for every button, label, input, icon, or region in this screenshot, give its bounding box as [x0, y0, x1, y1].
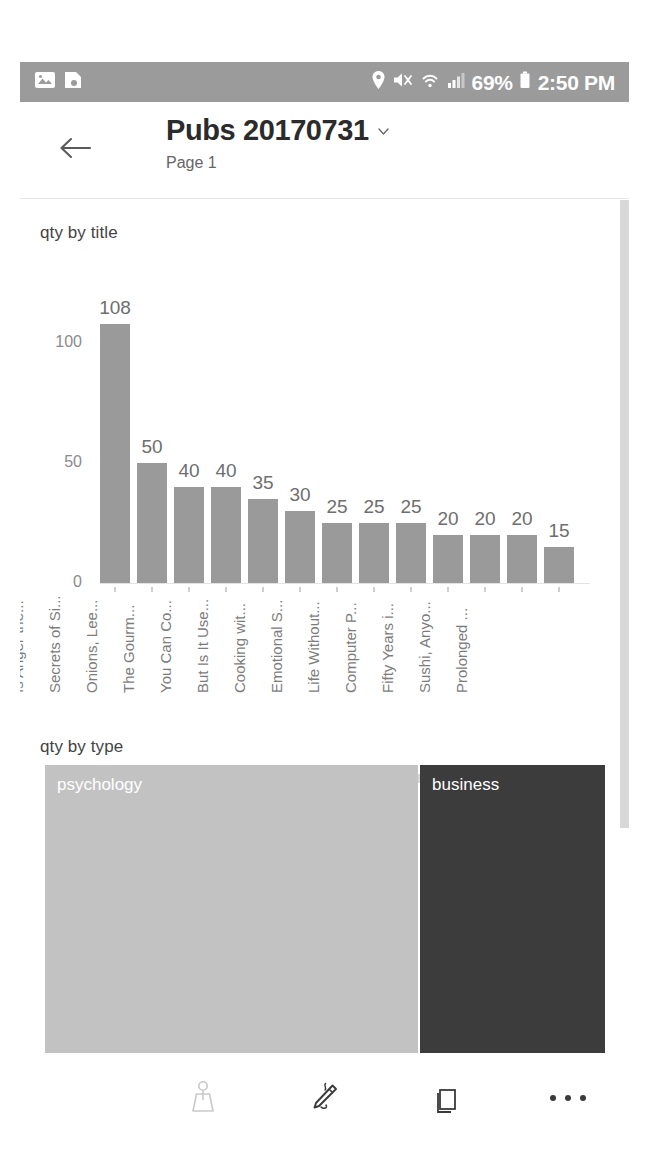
- app-header: Pubs 20170731 Page 1: [20, 102, 629, 198]
- bar[interactable]: [396, 523, 426, 583]
- filter-icon: [184, 1078, 222, 1118]
- bar-value-label: 108: [92, 297, 138, 319]
- wifi-icon: [420, 70, 440, 94]
- bar[interactable]: [137, 463, 167, 583]
- location-pin-icon: [371, 70, 386, 94]
- treemap-cell-label: psychology: [57, 775, 142, 795]
- phone-screen: 69% 2:50 PM Pubs 20170731: [20, 62, 629, 1132]
- report-canvas[interactable]: qty by title 050100 108Is Anger the...50…: [20, 198, 629, 1065]
- bar-column[interactable]: 15Prolonged ...: [544, 249, 574, 699]
- page-title: Pubs 20170731: [166, 114, 369, 147]
- report-title-row[interactable]: Pubs 20170731: [166, 114, 390, 147]
- pages-button[interactable]: [385, 1064, 507, 1132]
- back-arrow-icon: [58, 135, 92, 161]
- chevron-down-icon[interactable]: [377, 124, 390, 137]
- bar[interactable]: [507, 535, 537, 583]
- report-vertical-scrollbar[interactable]: [620, 198, 629, 1064]
- toolbar-spacer: [20, 1064, 142, 1132]
- y-axis-tick-label: 100: [38, 333, 82, 351]
- y-axis-tick-label: 50: [38, 453, 82, 471]
- back-button[interactable]: [53, 126, 97, 170]
- filter-button[interactable]: [142, 1064, 264, 1132]
- battery-percent-label: 69%: [472, 72, 513, 93]
- page-indicator-label: Page 1: [166, 153, 390, 172]
- screenshot-icon: [63, 70, 83, 94]
- bar[interactable]: [285, 511, 315, 583]
- bar[interactable]: [174, 487, 204, 583]
- status-bar: 69% 2:50 PM: [20, 62, 629, 102]
- bar-chart-visual[interactable]: 050100 108Is Anger the...50Secrets of Si…: [20, 249, 605, 699]
- battery-icon: [519, 70, 531, 94]
- bar[interactable]: [359, 523, 389, 583]
- x-axis-category-label: Prolonged ...: [447, 581, 559, 693]
- bar[interactable]: [470, 535, 500, 583]
- treemap-cell[interactable]: business: [420, 765, 605, 1053]
- status-bar-left-icons: [20, 70, 83, 94]
- bar-chart-plot-area[interactable]: 108Is Anger the...50Secrets of Si...40On…: [100, 249, 590, 699]
- volume-mute-icon: [392, 70, 414, 94]
- bar-value-label: 50: [129, 436, 175, 458]
- status-bar-clock: 2:50 PM: [538, 72, 615, 93]
- bar[interactable]: [322, 523, 352, 583]
- bar-chart-axis-line: [100, 583, 590, 584]
- bar-value-label: 15: [536, 520, 582, 542]
- bar-chart-title: qty by title: [40, 223, 118, 243]
- vertical-scroll-thumb[interactable]: [620, 200, 629, 828]
- pages-icon: [427, 1078, 465, 1118]
- status-bar-right-icons: 69% 2:50 PM: [371, 70, 629, 94]
- more-icon: [550, 1095, 586, 1101]
- cellular-signal-icon: [446, 70, 466, 94]
- bar[interactable]: [433, 535, 463, 583]
- treemap-cell-label: business: [432, 775, 499, 795]
- title-block: Pubs 20170731 Page 1: [166, 114, 390, 173]
- bar[interactable]: [544, 547, 574, 583]
- treemap-cell[interactable]: psychology: [45, 765, 418, 1053]
- annotate-pencil-icon: [305, 1078, 343, 1118]
- annotate-button[interactable]: [264, 1064, 386, 1132]
- more-button[interactable]: [507, 1064, 629, 1132]
- treemap-visual[interactable]: psychologybusiness: [45, 765, 605, 1053]
- image-icon: [34, 70, 56, 94]
- bar[interactable]: [248, 499, 278, 583]
- bottom-toolbar: [20, 1064, 629, 1132]
- bar[interactable]: [100, 324, 130, 583]
- treemap-title: qty by type: [40, 737, 123, 757]
- bar[interactable]: [211, 487, 241, 583]
